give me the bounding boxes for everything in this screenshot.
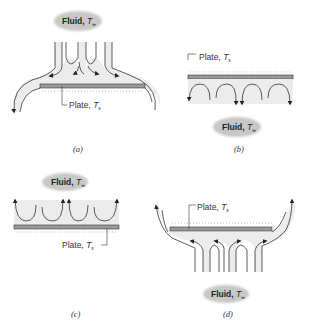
figure-root: Fluid, T∞ Plate, Ts (a) Plate, Ts xyxy=(0,0,310,334)
fluid-label: Fluid, T∞ xyxy=(222,122,256,133)
fluid-label: Fluid, T∞ xyxy=(51,177,85,188)
plate xyxy=(14,225,119,229)
panel-c: Fluid, T∞ Plate, Ts (c) xyxy=(14,173,119,319)
caption-c: (c) xyxy=(71,309,81,319)
plate-label: Plate, Ts xyxy=(199,52,231,63)
caption-b: (b) xyxy=(234,144,244,154)
panel-a: Fluid, T∞ Plate, Ts (a) xyxy=(14,11,160,154)
fluid-label: Fluid, T∞ xyxy=(62,16,96,27)
plate-label: Plate, Ts xyxy=(62,240,94,251)
panel-d: Plate, Ts Fluid, T∞ (d) xyxy=(156,200,296,319)
plate-label: Plate, Ts xyxy=(197,202,229,213)
fluid-label: Fluid, T∞ xyxy=(211,289,245,300)
convection-diagram: Fluid, T∞ Plate, Ts (a) Plate, Ts xyxy=(0,0,310,334)
plate xyxy=(170,227,272,231)
plate xyxy=(188,75,293,79)
panel-b: Plate, Ts Fluid, T∞ (b) xyxy=(188,52,293,154)
plate xyxy=(40,84,145,88)
caption-d: (d) xyxy=(223,309,233,319)
plate-label: Plate, Ts xyxy=(69,100,101,111)
caption-a: (a) xyxy=(73,144,83,154)
